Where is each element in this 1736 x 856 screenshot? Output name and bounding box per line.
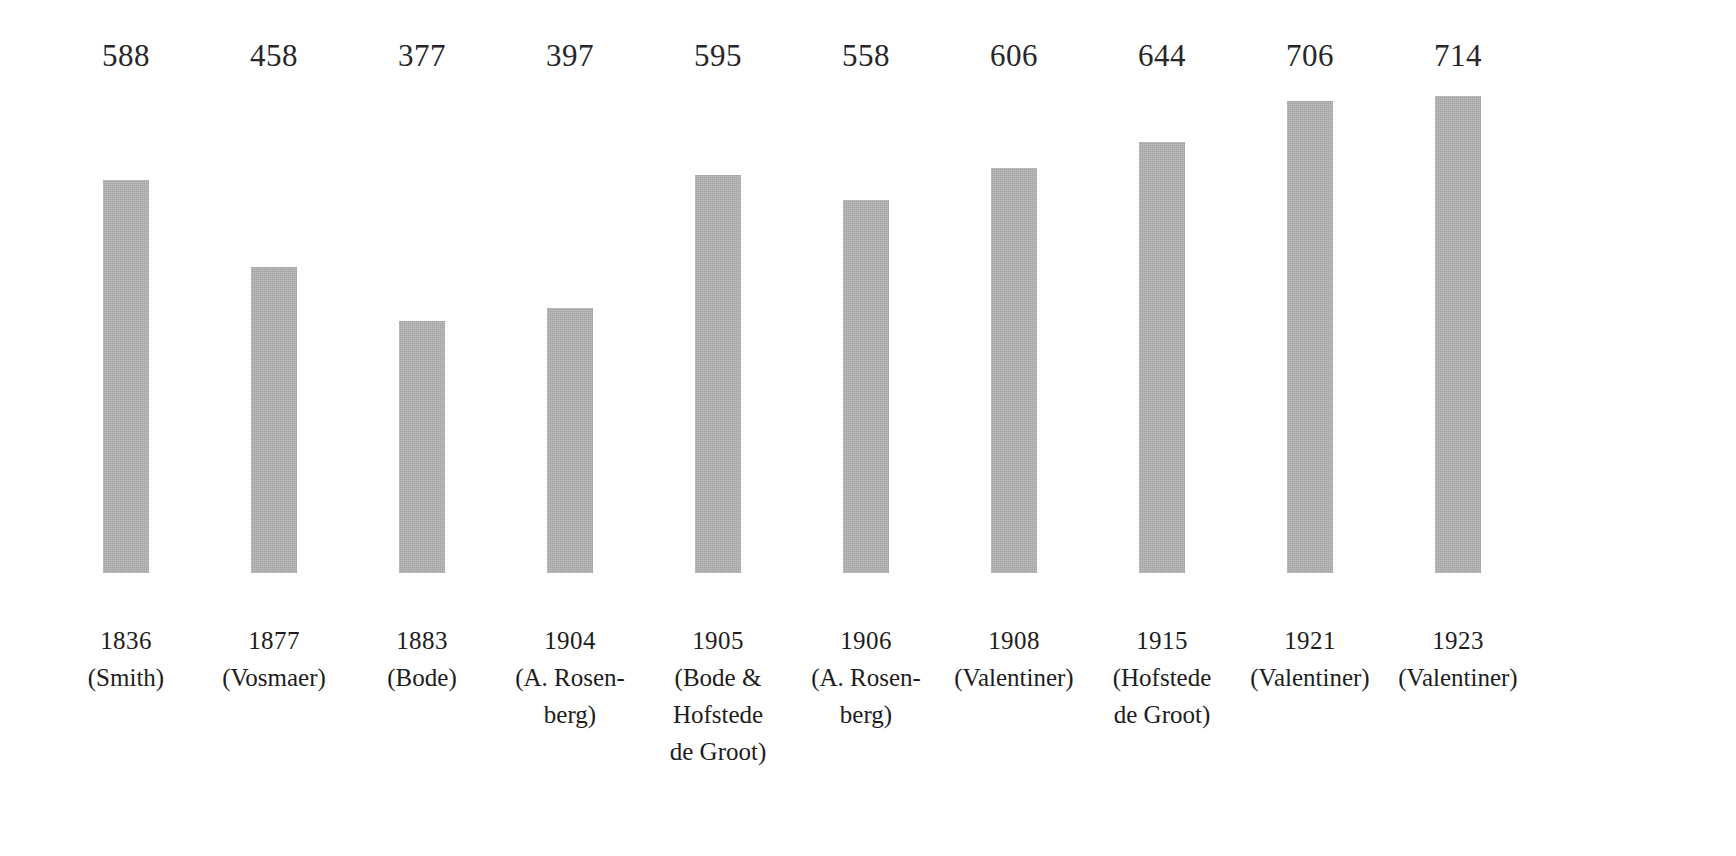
bar-value-label: 377 <box>348 36 496 76</box>
bar-value-label: 644 <box>1088 36 1236 76</box>
category-attribution: (Valentiner) <box>1380 659 1536 696</box>
category-year: 1905 <box>640 622 796 659</box>
bar-column: 7141923(Valentiner) <box>1384 0 1532 856</box>
category-year: 1877 <box>196 622 352 659</box>
bar-value-label: 558 <box>792 36 940 76</box>
category-attribution: (A. Rosen- <box>788 659 944 696</box>
bar-chart: 5881836(Smith)4581877(Vosmaer)3771883(Bo… <box>0 0 1736 856</box>
bar-column: 5951905(Bode &Hofstedede Groot) <box>644 0 792 856</box>
category-year: 1923 <box>1380 622 1536 659</box>
bar-category-label: 1906(A. Rosen-berg) <box>788 622 944 733</box>
bar <box>695 175 741 573</box>
bar-category-label: 1904(A. Rosen-berg) <box>492 622 648 733</box>
category-year: 1883 <box>344 622 500 659</box>
bar-category-label: 1908(Valentiner) <box>936 622 1092 696</box>
bar-column: 6061908(Valentiner) <box>940 0 1088 856</box>
category-attribution: (Hofstede <box>1084 659 1240 696</box>
category-year: 1836 <box>48 622 204 659</box>
category-attribution: de Groot) <box>640 733 796 770</box>
bar-column: 6441915(Hofstedede Groot) <box>1088 0 1236 856</box>
category-attribution: (Vosmaer) <box>196 659 352 696</box>
category-attribution: (Smith) <box>48 659 204 696</box>
bar-category-label: 1877(Vosmaer) <box>196 622 352 696</box>
bar-category-label: 1921(Valentiner) <box>1232 622 1388 696</box>
bar-category-label: 1883(Bode) <box>344 622 500 696</box>
bar-value-label: 397 <box>496 36 644 76</box>
bar-value-label: 595 <box>644 36 792 76</box>
category-year: 1915 <box>1084 622 1240 659</box>
plot-area: 5881836(Smith)4581877(Vosmaer)3771883(Bo… <box>0 0 1736 856</box>
bar-category-label: 1905(Bode &Hofstedede Groot) <box>640 622 796 770</box>
bar-column: 3971904(A. Rosen-berg) <box>496 0 644 856</box>
bar <box>103 180 149 573</box>
bar-column: 4581877(Vosmaer) <box>200 0 348 856</box>
category-year: 1904 <box>492 622 648 659</box>
category-attribution: Hofstede <box>640 696 796 733</box>
category-year: 1921 <box>1232 622 1388 659</box>
category-year: 1906 <box>788 622 944 659</box>
category-attribution: berg) <box>788 696 944 733</box>
bar <box>1287 101 1333 573</box>
bar-value-label: 606 <box>940 36 1088 76</box>
bar <box>1139 142 1185 573</box>
category-attribution: (Bode) <box>344 659 500 696</box>
bar-column: 5581906(A. Rosen-berg) <box>792 0 940 856</box>
bar-column: 3771883(Bode) <box>348 0 496 856</box>
bar <box>991 168 1037 573</box>
bar <box>1435 96 1481 573</box>
category-attribution: (A. Rosen- <box>492 659 648 696</box>
bar-column: 5881836(Smith) <box>52 0 200 856</box>
bar <box>547 308 593 573</box>
bar-column: 7061921(Valentiner) <box>1236 0 1384 856</box>
bar-value-label: 706 <box>1236 36 1384 76</box>
category-attribution: berg) <box>492 696 648 733</box>
bar <box>251 267 297 573</box>
bar <box>399 321 445 573</box>
bar-category-label: 1836(Smith) <box>48 622 204 696</box>
category-attribution: de Groot) <box>1084 696 1240 733</box>
bar <box>843 200 889 573</box>
category-year: 1908 <box>936 622 1092 659</box>
bar-category-label: 1923(Valentiner) <box>1380 622 1536 696</box>
category-attribution: (Valentiner) <box>1232 659 1388 696</box>
category-attribution: (Bode & <box>640 659 796 696</box>
bar-value-label: 458 <box>200 36 348 76</box>
category-attribution: (Valentiner) <box>936 659 1092 696</box>
bar-value-label: 588 <box>52 36 200 76</box>
bar-category-label: 1915(Hofstedede Groot) <box>1084 622 1240 733</box>
bar-value-label: 714 <box>1384 36 1532 76</box>
